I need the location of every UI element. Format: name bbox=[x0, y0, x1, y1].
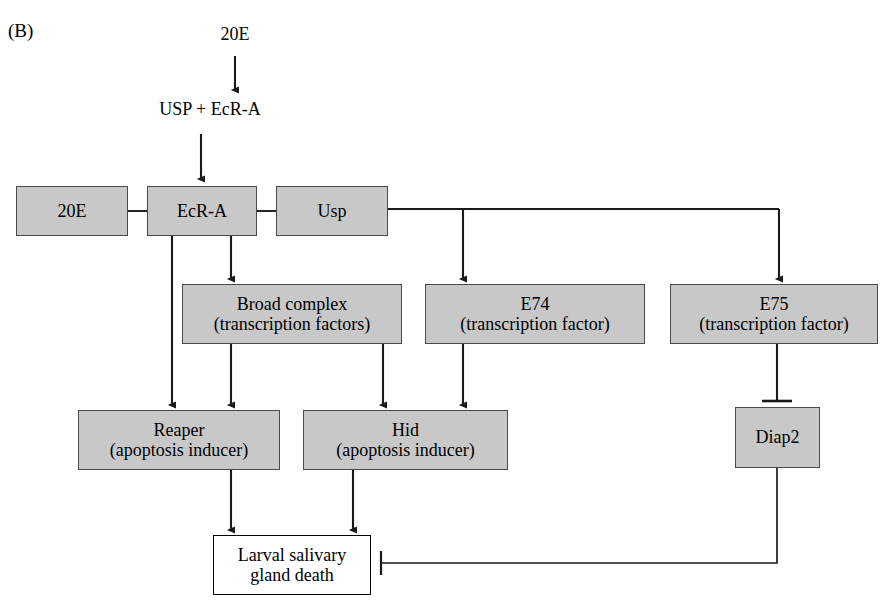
node-outcome[interactable]: Larval salivary gland death bbox=[213, 535, 371, 595]
node-label-line2: (transcription factors) bbox=[214, 314, 370, 334]
node-label-line2: (transcription factor) bbox=[460, 314, 609, 334]
node-label-line2: gland death bbox=[250, 565, 333, 585]
node-reaper[interactable]: Reaper (apoptosis inducer) bbox=[78, 410, 280, 470]
node-hid[interactable]: Hid (apoptosis inducer) bbox=[303, 410, 508, 470]
edge-diap2-to-outcome-stem bbox=[381, 468, 777, 563]
node-e74[interactable]: E74 (transcription factor) bbox=[425, 284, 645, 344]
node-diap2[interactable]: Diap2 bbox=[735, 407, 820, 468]
node-label: Diap2 bbox=[756, 427, 800, 447]
node-e75[interactable]: E75 (transcription factor) bbox=[670, 284, 878, 344]
node-broad-complex[interactable]: Broad complex (transcription factors) bbox=[182, 284, 402, 344]
node-label-line1: Reaper bbox=[154, 420, 205, 440]
node-usp[interactable]: Usp bbox=[276, 186, 388, 236]
node-label-line1: Larval salivary bbox=[238, 545, 346, 565]
node-label-line1: Broad complex bbox=[237, 294, 347, 314]
node-label-line2: (apoptosis inducer) bbox=[336, 440, 474, 460]
node-label: 20E bbox=[58, 201, 87, 221]
node-ecr-a[interactable]: EcR-A bbox=[147, 186, 257, 236]
hormone-input-label: 20E bbox=[200, 24, 270, 45]
node-label-line1: E74 bbox=[521, 294, 550, 314]
pathway-figure: (B) 20E USP + EcR-A bbox=[0, 0, 890, 604]
node-label-line1: Hid bbox=[392, 420, 419, 440]
receptor-dimer-label: USP + EcR-A bbox=[140, 99, 280, 120]
node-label-line1: E75 bbox=[760, 294, 789, 314]
panel-letter: (B) bbox=[8, 20, 33, 42]
node-label: EcR-A bbox=[177, 201, 227, 221]
node-label-line2: (transcription factor) bbox=[699, 314, 848, 334]
node-ligand-20e[interactable]: 20E bbox=[16, 186, 128, 236]
node-label-line2: (apoptosis inducer) bbox=[110, 440, 248, 460]
node-label: Usp bbox=[317, 201, 346, 221]
